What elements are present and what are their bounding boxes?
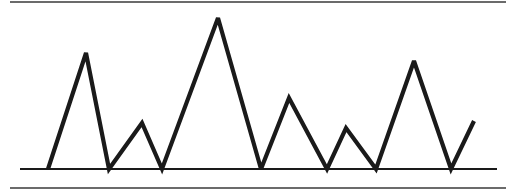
waveform-diagram (0, 0, 518, 190)
waveform-svg (0, 0, 518, 190)
waveform-line (48, 18, 474, 169)
